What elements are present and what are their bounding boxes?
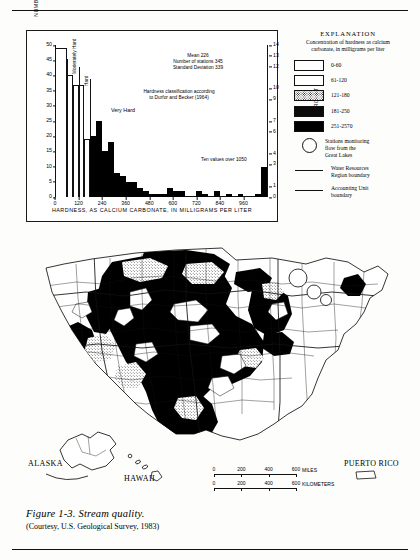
scale-unit-label: MILES (302, 467, 317, 473)
legend-class-row: 61-120 (286, 75, 410, 86)
scale-tick (269, 474, 270, 477)
histogram-bar (149, 194, 161, 197)
x-tick-960: 960 (239, 201, 248, 206)
legend-class-label: 61-120 (331, 77, 347, 84)
y-axis-title-text: NUMBER OF STATIONS (33, 0, 39, 59)
explanation-legend: EXPLANATION Concentration of hardness as… (286, 30, 410, 203)
scale-tick (241, 474, 242, 477)
legend-symbol-label: Stations monitoringflow from theGreat La… (325, 138, 369, 159)
annotation-line: Ten values over 1050 (201, 157, 247, 163)
class-label: Moderately Hard (72, 39, 77, 74)
x-tick-600: 600 (168, 201, 177, 206)
legend-subtitle-line2: carbonate, in milligrams per liter (286, 46, 410, 53)
legend-symbol-row: Stations monitoringflow from theGreat La… (286, 138, 410, 159)
scale-tick-label: 400 (264, 480, 272, 486)
scale-tick (241, 488, 242, 491)
legend-class-row: 251-2570 (286, 121, 410, 132)
scale-tick (214, 474, 215, 477)
percent-tick-12: 12 (273, 64, 279, 69)
scale-tick-label: 0 (213, 466, 216, 472)
percent-tick-4: 4 (273, 151, 276, 156)
percent-tick-6: 6 (273, 129, 276, 134)
legend-swatch-181-250 (294, 106, 324, 117)
classification-annotation: Hardness classification accordingto Durf… (133, 89, 225, 101)
caption-credit: (Courtesy, U.S. Geological Survey, 1983) (26, 522, 326, 531)
scale-line (214, 474, 296, 475)
legend-subtitle: Concentration of hardness as calcium car… (286, 39, 410, 53)
legend-class-label: 0-60 (331, 62, 341, 69)
scale-tick-label: 400 (264, 466, 272, 472)
hardness-histogram-panel: NUMBER OF STATIONS PERCENT 0510152025303… (26, 30, 278, 222)
annotation-line: Standard Deviation 339 (163, 65, 233, 71)
y-tick-40: 40 (46, 73, 52, 78)
percent-tick-3: 3 (273, 162, 276, 167)
legend-swatch-0-60 (294, 60, 324, 71)
y-tick-50: 50 (46, 42, 52, 47)
scale-tick-label: 200 (237, 466, 245, 472)
scale-tick (296, 474, 297, 477)
x-tick-240: 240 (98, 201, 107, 206)
scale-tick (214, 488, 215, 491)
percent-tick-1: 1 (273, 184, 276, 189)
puerto-rico-inset (356, 471, 376, 479)
scale-line (214, 488, 296, 489)
legend-class-row: 121-180 (286, 90, 410, 101)
percent-tick-10: 10 (273, 86, 279, 91)
scale-tick-label: 200 (237, 480, 245, 486)
percent-tick-7: 7 (273, 118, 276, 123)
histogram-bar (179, 191, 185, 197)
scale-tick-label: 600 (292, 466, 300, 472)
map-label-alaska: ALASKA (28, 459, 63, 468)
legend-title: EXPLANATION (286, 30, 410, 37)
class-label: Hard (84, 76, 89, 86)
legend-class-label: 251-2570 (331, 123, 352, 130)
scale-tick-label: 0 (213, 480, 216, 486)
x-axis-title: HARDNESS, AS CALCIUM CARBONATE, IN MILLI… (27, 207, 277, 213)
percent-tick-13: 13 (273, 53, 279, 58)
statistics-annotation: Mean 226Number of stations 345Standard D… (163, 53, 233, 71)
y-tick-30: 30 (46, 103, 52, 108)
percent-tick-9: 9 (273, 97, 276, 102)
y-tick-20: 20 (46, 134, 52, 139)
x-tick-120: 120 (74, 201, 83, 206)
figure-caption: Figure 1-3. Stream quality. (Courtesy, U… (26, 508, 326, 531)
scale-unit-label: KILOMETERS (302, 481, 334, 487)
histogram-bar (55, 48, 67, 197)
histogram-bar (261, 167, 267, 197)
line-segment-icon (295, 190, 323, 191)
x-tick-360: 360 (121, 201, 130, 206)
legend-swatch-61-120 (294, 75, 324, 86)
right-axis-line (267, 45, 268, 197)
map-label-hawaii: HAWAII (124, 474, 155, 483)
percent-tick-14: 14 (273, 42, 279, 47)
caption-title: Figure 1-3. Stream quality. (26, 508, 326, 519)
great-lakes-station-circle (321, 295, 332, 306)
legend-class-row: 0-60 (286, 60, 410, 71)
histogram-bar (214, 191, 220, 197)
histogram-bar (238, 194, 244, 197)
legend-class-list: 0-6061-120121-180181-250251-2570 (286, 60, 410, 132)
legend-symbol-row: Accounting Unitboundary (286, 185, 410, 199)
legend-symbol-label: Water ResourcesRegion boundary (331, 165, 370, 179)
overflow-annotation: Ten values over 1050 (201, 157, 247, 163)
legend-class-label: 181-250 (331, 108, 350, 115)
great-lakes-station-circle (307, 285, 321, 299)
y-axis-title: NUMBER OF STATIONS (33, 0, 39, 59)
y-tick-5: 5 (49, 179, 52, 184)
y-tick-45: 45 (46, 58, 52, 63)
y-tick-25: 25 (46, 118, 52, 123)
legend-symbol-list: Stations monitoringflow from theGreat La… (286, 138, 410, 199)
histogram-plot: NUMBER OF STATIONS PERCENT 0510152025303… (55, 45, 267, 197)
legend-symbol-row: Water ResourcesRegion boundary (286, 165, 410, 179)
line-segment-icon (295, 170, 323, 171)
scale-tick (296, 488, 297, 491)
y-tick-0: 0 (49, 194, 52, 199)
legend-class-row: 181-250 (286, 106, 410, 117)
great-lakes-station-circle (289, 269, 307, 287)
map-label-puerto-rico: PUERTO RICO (344, 459, 399, 468)
y-tick-35: 35 (46, 88, 52, 93)
histogram-bar (202, 194, 208, 197)
x-tick-480: 480 (145, 201, 154, 206)
legend-class-label: 121-180 (331, 92, 350, 99)
x-tick-840: 840 (216, 201, 225, 206)
